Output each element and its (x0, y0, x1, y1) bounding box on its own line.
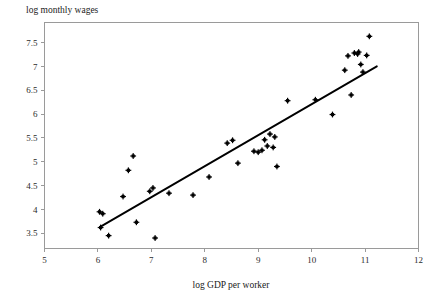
y-tick-label: 3.5 (26, 228, 38, 238)
data-point-vbar (354, 50, 355, 56)
data-point-vbar (358, 49, 359, 55)
data-point (342, 67, 348, 73)
data-point-vbar (366, 52, 367, 58)
y-axis-ticks: 3.544.555.566.577.5 (26, 38, 44, 239)
x-tick-label: 6 (96, 255, 101, 265)
data-point (190, 192, 196, 198)
data-point (270, 145, 276, 151)
data-point (348, 92, 354, 98)
data-point (130, 153, 136, 159)
data-point (235, 160, 241, 166)
y-tick-label: 6.5 (26, 85, 38, 95)
data-point (120, 194, 126, 200)
data-point-vbar (267, 143, 268, 149)
y-tick-label: 4.5 (26, 181, 38, 191)
data-point-vbar (347, 53, 348, 59)
axis-frame (45, 23, 419, 249)
x-tick-label: 9 (256, 255, 261, 265)
data-point (152, 235, 158, 241)
data-point (166, 190, 172, 196)
x-tick-label: 11 (361, 255, 370, 265)
y-tick-label: 5 (33, 157, 38, 167)
data-point (285, 98, 291, 104)
data-point-vbar (108, 233, 109, 239)
y-tick-label: 7.5 (26, 38, 38, 48)
data-point (272, 134, 278, 140)
x-axis-title: log GDP per worker (193, 280, 271, 290)
x-tick-label: 5 (42, 255, 47, 265)
x-tick-label: 8 (203, 255, 208, 265)
data-point (274, 164, 280, 170)
data-point-vbar (102, 211, 103, 217)
scatter-plot: log monthly wages 3.544.555.566.577.5 56… (0, 0, 439, 297)
data-point (264, 143, 270, 149)
data-point (364, 52, 370, 58)
data-point-vbar (332, 112, 333, 118)
x-axis-ticks: 56789101112 (42, 249, 423, 265)
data-point-vbar (149, 188, 150, 194)
x-tick-label: 7 (149, 255, 154, 265)
data-point-vbar (154, 235, 155, 241)
data-point-vbar (276, 164, 277, 170)
data-point-vbar (133, 153, 134, 159)
data-point (125, 167, 131, 173)
data-point-vbar (227, 140, 228, 146)
data-point-vbar (287, 98, 288, 104)
data-point-vbar (208, 174, 209, 180)
data-point (206, 174, 212, 180)
data-point-vbar (122, 194, 123, 200)
data-point-vbar (273, 145, 274, 151)
data-point (106, 233, 112, 239)
data-point (230, 137, 236, 143)
y-tick-label: 7 (33, 62, 38, 72)
data-point (345, 53, 351, 59)
y-tick-label: 4 (33, 205, 38, 215)
regression-line (101, 66, 377, 226)
data-point-vbar (100, 225, 101, 231)
data-point-vbar (344, 67, 345, 73)
data-point-vbar (168, 190, 169, 196)
data-point (358, 62, 364, 68)
data-point-vbar (152, 185, 153, 191)
data-point-vbar (237, 160, 238, 166)
y-tick-label: 6 (33, 109, 38, 119)
data-point (224, 140, 230, 146)
data-point-vbar (136, 219, 137, 225)
data-point (330, 112, 336, 118)
data-point (262, 137, 268, 143)
y-tick-label: 5.5 (26, 133, 38, 143)
data-point-group (97, 33, 373, 240)
data-point-vbar (362, 69, 363, 75)
data-point-vbar (269, 131, 270, 137)
data-point (366, 33, 372, 39)
data-point-vbar (264, 137, 265, 143)
regression-line-group (101, 66, 377, 226)
data-point-vbar (253, 148, 254, 154)
data-point-vbar (360, 62, 361, 68)
data-point-vbar (232, 137, 233, 143)
data-point-vbar (258, 149, 259, 155)
chart-figure: log monthly wages 3.544.555.566.577.5 56… (0, 0, 439, 297)
plot-frame (45, 23, 419, 249)
data-point (267, 131, 273, 137)
data-point-vbar (351, 92, 352, 98)
x-tick-label: 10 (307, 255, 317, 265)
data-point (133, 219, 139, 225)
data-point-vbar (315, 97, 316, 103)
x-tick-label: 12 (414, 255, 423, 265)
data-point-vbar (369, 33, 370, 39)
y-axis-title: log monthly wages (26, 5, 99, 15)
data-point-vbar (128, 167, 129, 173)
data-point-vbar (274, 134, 275, 140)
data-point-vbar (192, 192, 193, 198)
data-point-vbar (261, 147, 262, 153)
data-point (251, 148, 257, 154)
